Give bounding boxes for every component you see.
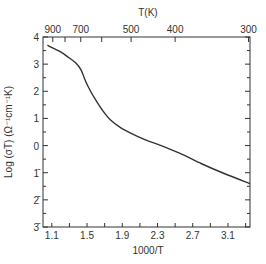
x-tick-label: 1.1 bbox=[45, 230, 59, 241]
y-tick-label: 2̄ bbox=[33, 195, 41, 206]
plot-border bbox=[43, 37, 250, 227]
top-tick-label: 900 bbox=[44, 24, 61, 35]
conductivity-chart: 1.11.51.92.32.73.1 432101̄2̄3̄ 900700500… bbox=[0, 0, 266, 264]
y-tick-label: 1̄ bbox=[33, 168, 41, 179]
data-curve bbox=[47, 45, 250, 183]
x-tick-label: 2.7 bbox=[186, 230, 200, 241]
top-tick-label: 500 bbox=[123, 24, 140, 35]
y-tick-label: 3̄ bbox=[33, 222, 41, 233]
y-tick-label: 4 bbox=[33, 32, 39, 43]
y-tick-label: 0 bbox=[33, 141, 39, 152]
y-tick-label: 3 bbox=[33, 59, 39, 70]
top-tick-label: 700 bbox=[72, 24, 89, 35]
x-axis-ticks: 1.11.51.92.32.73.1 bbox=[45, 223, 246, 241]
x-tick-label: 1.5 bbox=[80, 230, 94, 241]
x-axis-title: 1000/T bbox=[132, 245, 163, 256]
top-tick-label: 400 bbox=[167, 24, 184, 35]
top-tick-label: 300 bbox=[240, 24, 257, 35]
top-axis-ticks: 900700500400300 bbox=[44, 24, 257, 42]
plot-frame bbox=[43, 37, 250, 227]
x-tick-label: 1.9 bbox=[115, 230, 129, 241]
y-tick-label: 1 bbox=[33, 113, 39, 124]
x-tick-label: 2.3 bbox=[151, 230, 165, 241]
y-tick-label: 2 bbox=[33, 86, 39, 97]
x-tick-label: 3.1 bbox=[221, 230, 235, 241]
y-axis-ticks: 432101̄2̄3̄ bbox=[33, 32, 250, 233]
y-axis-title: Log (σT) (Ω⁻¹cm⁻¹K) bbox=[3, 86, 14, 178]
top-axis-title: T(K) bbox=[138, 7, 157, 18]
